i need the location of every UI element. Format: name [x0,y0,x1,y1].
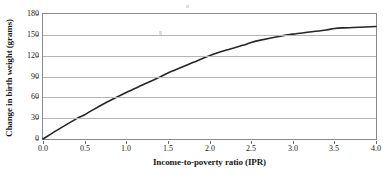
x-tick-mark [168,141,169,144]
x-tick-label: 2.0 [195,145,225,153]
x-tick-mark [43,141,44,144]
y-tick-label: 150 [1,31,39,39]
x-tick-label: 3.5 [319,145,349,153]
gridline [43,97,376,98]
x-tick-label: 4.0 [361,145,390,153]
x-tick-label: 1.5 [153,145,183,153]
x-tick-mark [334,141,335,144]
y-tick-label: 90 [1,73,39,81]
y-axis-ticks: 0306090120150180 [0,13,39,140]
y-tick-mark [36,118,39,119]
gridline [43,118,376,119]
x-tick-mark [376,141,377,144]
x-axis-title: Income-to-poverty ratio (IPR) [42,157,377,167]
y-tick-mark [36,56,39,57]
scan-artifact-icon [159,31,162,35]
y-tick-mark [36,35,39,36]
y-tick-mark [36,97,39,98]
x-tick-mark [210,141,211,144]
x-tick-label: 3.0 [278,145,308,153]
plot-area [42,13,377,140]
gridline [43,77,376,78]
x-tick-label: 0.0 [28,145,58,153]
x-axis-ticks: 0.00.51.01.52.02.53.03.54.0 [42,141,377,155]
x-tick-mark [293,141,294,144]
y-tick-label: 180 [1,10,39,18]
x-tick-mark [126,141,127,144]
x-tick-label: 2.5 [236,145,266,153]
gridline [43,35,376,36]
y-tick-label: 30 [1,114,39,122]
x-tick-mark [85,141,86,144]
x-tick-label: 1.0 [111,145,141,153]
chart-figure: Change in birth weight (grams) 030609012… [0,0,390,178]
y-tick-label: 120 [1,52,39,60]
y-tick-mark [36,139,39,140]
y-tick-label: 60 [1,93,39,101]
scan-artifact-icon [186,5,189,8]
gridline [43,56,376,57]
y-tick-mark [36,77,39,78]
y-tick-mark [36,14,39,15]
x-tick-label: 0.5 [70,145,100,153]
y-tick-label: 0 [1,135,39,143]
x-tick-mark [251,141,252,144]
